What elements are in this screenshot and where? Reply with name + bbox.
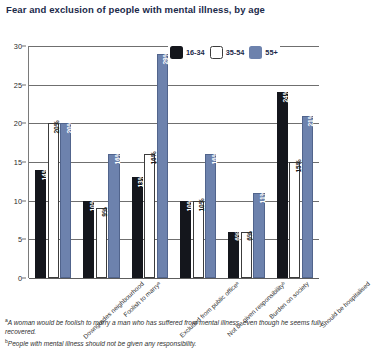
bar-value-label: 11% [259, 191, 267, 204]
y-tick-mark-0 [22, 278, 26, 279]
footnote: bPeople with mental illness should not b… [5, 337, 325, 348]
legend-item[interactable]: 16-34 [170, 46, 205, 59]
bar-value-label: 24% [282, 90, 290, 103]
bar-group: 24%15%21% [271, 46, 319, 278]
gridline-0 [29, 278, 319, 279]
y-tick-mark-20 [22, 123, 26, 124]
bar[interactable]: 11% [253, 193, 264, 278]
chart-title: Fear and exclusion of people with mental… [6, 4, 328, 15]
bar-value-label: 20% [66, 121, 74, 134]
bar[interactable]: 6% [241, 232, 252, 278]
y-axis: 051015202530 [0, 46, 26, 278]
y-tick-mark-15 [22, 162, 26, 163]
bar[interactable]: 10% [83, 201, 94, 278]
footnote-marker: a [5, 317, 8, 323]
bar-group: 10%10%16% [174, 46, 222, 278]
footnotes: aA woman would be foolish to marry a man… [5, 316, 325, 348]
bar[interactable]: 16% [205, 154, 216, 278]
bar[interactable]: 24% [277, 92, 288, 278]
bar[interactable]: 13% [132, 177, 143, 278]
y-tick-label-30: 30 [14, 42, 22, 51]
y-tick-label-10: 10 [14, 196, 22, 205]
bar-value-label: 16% [211, 152, 219, 165]
y-tick-label-15: 15 [14, 158, 22, 167]
legend-swatch-icon [170, 46, 183, 59]
bar-group: 6%6%11% [222, 46, 270, 278]
y-tick-label-20: 20 [14, 119, 22, 128]
y-tick-mark-30 [22, 46, 26, 47]
bar[interactable]: 20% [60, 123, 71, 278]
x-axis-labels: Downgrades neighbourhoodFoolish to marry… [28, 280, 318, 310]
plot-area: 14%20%20%10%9%16%13%16%29%10%10%16%6%6%1… [28, 46, 318, 278]
footnote: aA woman would be foolish to marry a man… [5, 316, 325, 337]
bar[interactable]: 29% [157, 54, 168, 278]
legend-label: 35-54 [226, 48, 245, 57]
bar[interactable]: 6% [228, 232, 239, 278]
x-axis-label: Should be hospitalised [319, 280, 371, 329]
footnote-marker: b [5, 338, 8, 344]
bar[interactable]: 16% [108, 154, 119, 278]
legend-swatch-icon [210, 46, 223, 59]
bar[interactable]: 20% [48, 123, 59, 278]
bar-group: 13%16%29% [126, 46, 174, 278]
y-tick-label-25: 25 [14, 80, 22, 89]
bar[interactable]: 16% [144, 154, 155, 278]
bar[interactable]: 14% [35, 170, 46, 278]
bar-value-label: 16% [114, 152, 122, 165]
y-tick-mark-25 [22, 84, 26, 85]
bar-groups: 14%20%20%10%9%16%13%16%29%10%10%16%6%6%1… [29, 46, 319, 278]
legend-label: 16-34 [186, 48, 205, 57]
bar-group: 10%9%16% [77, 46, 125, 278]
bar-group: 14%20%20% [29, 46, 77, 278]
bar[interactable]: 15% [289, 162, 300, 278]
y-tick-mark-10 [22, 200, 26, 201]
legend-item[interactable]: 35-54 [210, 46, 245, 59]
legend-label: 55+ [265, 48, 277, 57]
y-tick-mark-5 [22, 239, 26, 240]
legend-item[interactable]: 55+ [249, 46, 277, 59]
legend-swatch-icon [249, 46, 262, 59]
bar[interactable]: 10% [193, 201, 204, 278]
legend: 16-3435-5455+ [168, 44, 280, 61]
bar[interactable]: 21% [302, 116, 313, 278]
bar[interactable]: 9% [96, 208, 107, 278]
bar[interactable]: 10% [180, 201, 191, 278]
bar-value-label: 21% [307, 113, 315, 126]
